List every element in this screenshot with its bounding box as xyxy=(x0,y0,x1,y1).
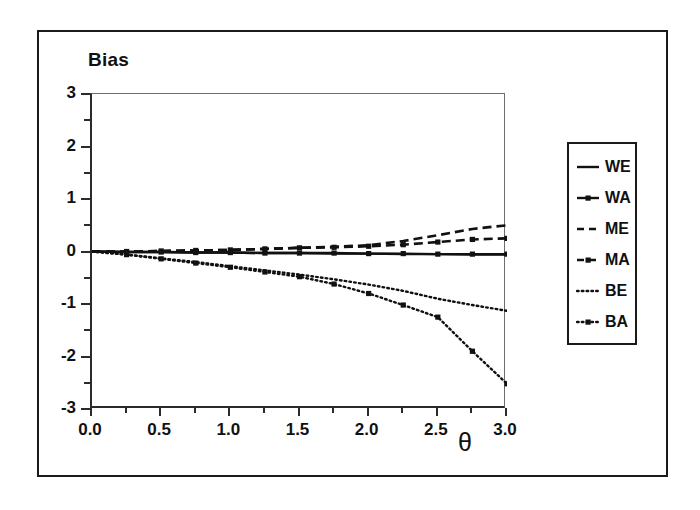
y-tick-label: -3 xyxy=(61,398,76,418)
y-tick-minor xyxy=(84,224,90,226)
series-ba xyxy=(92,252,507,387)
y-tick-minor xyxy=(84,277,90,279)
data-point-marker xyxy=(366,244,371,249)
data-point-marker xyxy=(331,245,336,250)
y-tick-label: -2 xyxy=(61,346,76,366)
y-tick-label: 1 xyxy=(67,188,76,208)
x-tick-label: 1.0 xyxy=(217,420,241,440)
x-tick-minor xyxy=(401,408,403,413)
x-tick-major xyxy=(228,408,230,416)
legend-swatch-dashed-icon xyxy=(576,254,600,266)
legend-label: WA xyxy=(605,189,631,207)
legend-label: MA xyxy=(605,251,630,269)
legend-item-ma[interactable]: MA xyxy=(569,244,635,275)
legend-swatch-dotted-icon xyxy=(576,316,600,328)
data-point-marker xyxy=(366,291,371,296)
y-tick-label: 2 xyxy=(67,136,76,156)
data-point-marker xyxy=(401,251,406,256)
data-point-marker xyxy=(331,281,336,286)
series-be xyxy=(92,252,507,311)
data-point-marker xyxy=(470,237,475,242)
legend-item-wa[interactable]: WA xyxy=(569,182,635,213)
x-tick-minor xyxy=(194,408,196,413)
legend-swatch-solid-icon xyxy=(576,161,600,173)
data-point-marker xyxy=(297,274,302,279)
y-tick-major xyxy=(81,93,90,95)
data-point-marker xyxy=(124,252,129,257)
x-tick-label: 0.5 xyxy=(147,420,171,440)
x-tick-major xyxy=(436,408,438,416)
y-tick-major xyxy=(81,356,90,358)
x-axis-label: θ xyxy=(458,428,472,457)
data-point-marker xyxy=(435,239,440,244)
y-tick-minor xyxy=(84,329,90,331)
x-tick-major xyxy=(90,408,92,416)
y-tick-major xyxy=(81,198,90,200)
legend-item-we[interactable]: WE xyxy=(569,151,635,182)
legend-label: BA xyxy=(605,313,628,331)
y-tick-minor xyxy=(84,119,90,121)
legend-item-me[interactable]: ME xyxy=(569,213,635,244)
x-tick-label: 0.0 xyxy=(78,420,102,440)
x-tick-major xyxy=(505,408,507,416)
x-tick-major xyxy=(298,408,300,416)
x-tick-minor xyxy=(125,408,127,413)
y-tick-major xyxy=(81,251,90,253)
data-point-marker xyxy=(504,252,507,257)
data-point-marker xyxy=(297,250,302,255)
data-point-marker xyxy=(435,315,440,320)
data-point-marker xyxy=(159,248,164,253)
legend-label: WE xyxy=(605,158,631,176)
data-point-marker xyxy=(470,252,475,257)
x-tick-major xyxy=(159,408,161,416)
data-point-marker xyxy=(193,260,198,265)
y-tick-label: -1 xyxy=(61,293,76,313)
y-tick-minor xyxy=(84,382,90,384)
x-tick-label: 3.0 xyxy=(493,420,517,440)
x-tick-label: 2.5 xyxy=(424,420,448,440)
data-point-marker xyxy=(470,349,475,354)
legend-item-ba[interactable]: BA xyxy=(569,306,635,337)
data-point-marker xyxy=(297,245,302,250)
x-tick-label: 1.5 xyxy=(286,420,310,440)
data-point-marker xyxy=(193,248,198,253)
page-title: Bias xyxy=(88,49,129,71)
data-point-marker xyxy=(504,236,507,241)
y-tick-major xyxy=(81,408,90,410)
x-tick-minor xyxy=(332,408,334,413)
data-point-marker xyxy=(435,252,440,257)
legend-swatch-solid-icon xyxy=(576,192,600,204)
data-point-marker xyxy=(401,242,406,247)
data-point-marker xyxy=(504,381,507,386)
legend-swatch-dotted-icon xyxy=(576,285,600,297)
data-point-marker xyxy=(228,247,233,252)
legend-item-be[interactable]: BE xyxy=(569,275,635,306)
legend-label: ME xyxy=(605,220,629,238)
legend: WEWAMEMABEBA xyxy=(567,142,637,345)
x-tick-major xyxy=(367,408,369,416)
plot-curves xyxy=(92,94,507,409)
data-point-marker xyxy=(331,250,336,255)
legend-label: BE xyxy=(605,282,627,300)
x-tick-minor xyxy=(263,408,265,413)
legend-swatch-dashed-icon xyxy=(576,223,600,235)
y-tick-minor xyxy=(84,172,90,174)
data-point-marker xyxy=(401,302,406,307)
data-point-marker xyxy=(262,246,267,251)
x-axis: 0.00.51.01.52.02.53.0 xyxy=(90,408,505,448)
y-tick-label: 3 xyxy=(67,83,76,103)
x-tick-minor xyxy=(470,408,472,413)
data-point-marker xyxy=(262,269,267,274)
data-point-marker xyxy=(228,265,233,270)
data-point-marker xyxy=(159,256,164,261)
x-tick-label: 2.0 xyxy=(355,420,379,440)
y-tick-major xyxy=(81,146,90,148)
y-tick-major xyxy=(81,303,90,305)
data-point-marker xyxy=(366,251,371,256)
plot-area xyxy=(90,93,505,408)
y-tick-label: 0 xyxy=(67,241,76,261)
